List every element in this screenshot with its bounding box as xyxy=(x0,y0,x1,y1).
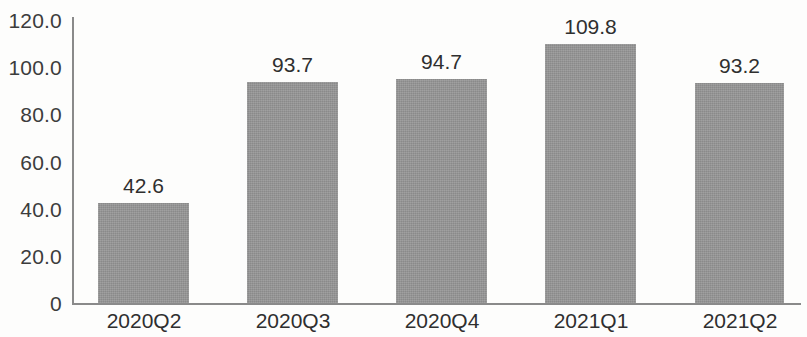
bar-value-2021Q2: 93.2 xyxy=(667,55,807,76)
bar-2021Q1[interactable]: 109.8 xyxy=(545,44,636,303)
y-tick-label-40: 40.0 xyxy=(0,199,62,220)
y-tick-label-20: 20.0 xyxy=(0,246,62,267)
bar-slot-2020Q4: 94.7 xyxy=(396,20,487,303)
y-tick-label-100: 100.0 xyxy=(0,57,62,78)
bar-value-2021Q1: 109.8 xyxy=(517,16,664,37)
bar-slot-2021Q2: 93.2 xyxy=(695,20,784,303)
bar-2021Q2[interactable]: 93.2 xyxy=(695,83,784,303)
bar-slot-2020Q3: 93.7 xyxy=(247,20,338,303)
y-tick-label-60: 60.0 xyxy=(0,152,62,173)
y-tick-label-80: 80.0 xyxy=(0,104,62,125)
bar-chart: 120.0 100.0 80.0 60.0 40.0 20.0 0 42.6 9… xyxy=(0,0,807,337)
y-tick-label-120: 120.0 xyxy=(0,10,62,31)
bar-2020Q3[interactable]: 93.7 xyxy=(247,82,338,303)
bar-value-2020Q2: 42.6 xyxy=(70,175,217,196)
bar-2020Q4[interactable]: 94.7 xyxy=(396,79,487,303)
x-axis-line xyxy=(72,303,801,305)
x-tick-label-2021Q2: 2021Q2 xyxy=(649,310,807,332)
plot-area: 42.6 93.7 94.7 109.8 93.2 xyxy=(74,20,801,303)
bar-value-2020Q4: 94.7 xyxy=(368,51,515,72)
bar-value-2020Q3: 93.7 xyxy=(219,54,366,75)
bar-2020Q2[interactable]: 42.6 xyxy=(98,203,189,303)
bar-slot-2021Q1: 109.8 xyxy=(545,20,636,303)
bar-slot-2020Q2: 42.6 xyxy=(98,20,189,303)
